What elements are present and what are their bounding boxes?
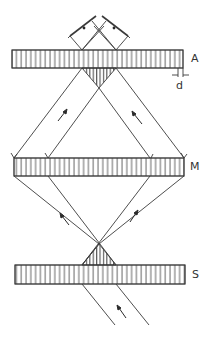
diagram-canvas xyxy=(0,0,211,339)
arrow-upper-right-icon xyxy=(132,111,142,124)
plate-a xyxy=(12,50,183,68)
dimension-d-marker xyxy=(172,68,189,77)
plate-s xyxy=(15,265,185,284)
input-beam xyxy=(82,284,149,325)
beam-upper-right xyxy=(99,68,184,158)
arrow-upper-left-icon xyxy=(58,109,67,121)
arrow-input-icon xyxy=(117,305,126,318)
plate-label-a: A xyxy=(191,53,199,64)
plate-m xyxy=(14,158,184,176)
spacing-label-d: d xyxy=(176,80,183,91)
plate-label-s: S xyxy=(192,269,199,280)
beam-upper-left xyxy=(14,68,99,158)
reflection-ticks xyxy=(11,153,187,158)
arrow-lower-right-icon xyxy=(130,210,138,222)
overlap-triangle-top xyxy=(82,68,116,88)
plate-label-m: M xyxy=(190,161,200,172)
overlap-triangle-bottom xyxy=(82,244,116,265)
